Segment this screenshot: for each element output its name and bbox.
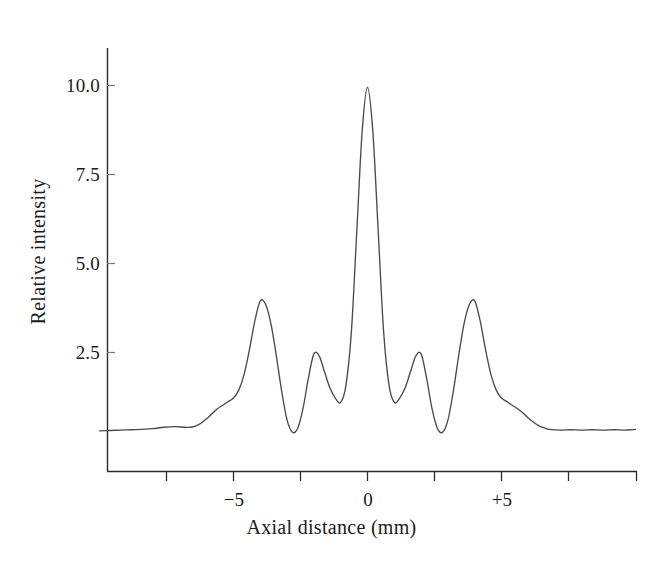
y-axis-title: Relative intensity — [27, 122, 50, 382]
y-tick-label-10: 10.0 — [46, 76, 100, 95]
x-tick-label-zero: 0 — [338, 490, 398, 509]
y-tick-label-7-5: 7.5 — [46, 165, 100, 184]
x-axis-ticks — [167, 471, 637, 481]
y-axis-title-wrapper: Relative intensity — [0, 0, 1, 1]
data-curve-beam-profile — [100, 87, 636, 432]
y-tick-label-5: 5.0 — [46, 254, 100, 273]
y-tick-label-2-5: 2.5 — [46, 343, 100, 362]
x-axis-title: Axial distance (mm) — [0, 516, 663, 539]
x-tick-label-plus-5: +5 — [472, 490, 532, 509]
figure-canvas: 10.0 7.5 5.0 2.5 −5 0 +5 Axial distance … — [0, 0, 663, 566]
x-tick-label-minus-5: −5 — [204, 490, 264, 509]
